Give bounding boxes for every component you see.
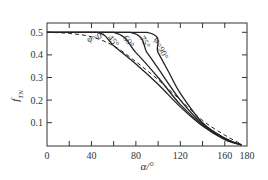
curve-label: 45°	[105, 33, 121, 49]
y-tick-label: 0.5	[31, 27, 44, 38]
x-tick-label: 0	[45, 150, 50, 161]
y-tick-label: 0.1	[31, 117, 44, 128]
y-tick-label: 0.4	[31, 49, 44, 60]
y-axis-label-sub: TN	[17, 90, 25, 99]
x-axis-label: α/°	[140, 160, 154, 172]
x-tick-label: 160	[217, 150, 232, 161]
x-tick-label: 80	[131, 150, 141, 161]
x-tick-label: 120	[173, 150, 188, 161]
y-tick-label: 0.3	[31, 72, 44, 83]
y-tick-label: 0.2	[31, 95, 44, 106]
chart: 040801201601800.10.20.30.40.5 φ=0°45°60°…	[0, 0, 268, 180]
x-tick-label: 40	[86, 150, 96, 161]
curve-label: φ=90°	[152, 36, 171, 61]
curve-label: φ=0°	[86, 29, 107, 44]
y-axis-label: fTN	[9, 90, 25, 102]
x-tick-label: 180	[240, 150, 255, 161]
